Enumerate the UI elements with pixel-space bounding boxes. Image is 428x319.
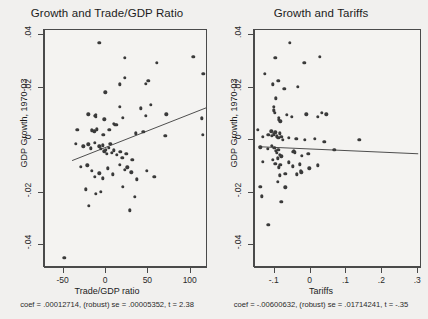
x-axis-tick <box>381 268 382 273</box>
panel-title-left: Growth and Trade/GDP Ratio <box>0 7 214 19</box>
y-axis-tick-label: .04 <box>18 27 38 37</box>
y-axis-tick-label: -.02 <box>228 185 248 195</box>
y-axis-tick-label: .02 <box>228 80 248 90</box>
x-axis-line-right <box>254 267 421 268</box>
panel-growth-trade-gdp-ratio: Growth and Trade/GDP Ratio GDP Growth, 1… <box>0 0 214 319</box>
x-axis-tick-label: .2 <box>361 275 401 285</box>
panel-growth-tariffs: Growth and Tariffs GDP Growth, 1970-03 T… <box>214 0 428 319</box>
x-axis-title-left: Trade/GDP ratio <box>0 286 214 296</box>
panel-title-right: Growth and Tariffs <box>214 7 428 19</box>
y-axis-tick <box>248 244 253 245</box>
x-axis-tick-label: .1 <box>325 275 365 285</box>
x-axis-tick-label: -50 <box>43 275 83 285</box>
y-axis-tick <box>38 244 43 245</box>
plot-area-right <box>254 29 421 267</box>
x-axis-tick-label: 50 <box>127 275 167 285</box>
y-axis-title-left: GDP Growth, 1970-03 <box>19 58 29 188</box>
y-axis-tick-label: 0 <box>228 132 248 142</box>
x-axis-tick-label: 100 <box>170 275 210 285</box>
x-axis-tick <box>190 268 191 273</box>
y-axis-tick <box>248 192 253 193</box>
y-axis-title-right: GDP Growth, 1970-03 <box>229 58 239 188</box>
y-axis-tick-label: -.02 <box>18 185 38 195</box>
y-axis-tick <box>38 139 43 140</box>
y-axis-tick-label: .04 <box>228 27 248 37</box>
x-axis-tick-label: 0 <box>85 275 125 285</box>
x-axis-title-right: Tariffs <box>214 286 428 296</box>
y-axis-tick <box>248 34 253 35</box>
x-axis-tick <box>63 268 64 273</box>
plot-area-left <box>44 29 207 267</box>
x-axis-tick-label: 0 <box>290 275 330 285</box>
x-axis-tick <box>417 268 418 273</box>
y-axis-tick <box>38 34 43 35</box>
x-axis-tick-label: .3 <box>397 275 428 285</box>
y-axis-tick <box>38 192 43 193</box>
x-axis-line-left <box>44 267 207 268</box>
x-axis-tick <box>147 268 148 273</box>
y-axis-tick-label: -.04 <box>18 237 38 247</box>
y-axis-tick <box>248 87 253 88</box>
regression-note-left: coef = .00012714, (robust) se = .0000535… <box>0 300 214 309</box>
fit-line-right <box>255 30 420 266</box>
y-axis-tick <box>38 87 43 88</box>
x-axis-tick-label: -.1 <box>254 275 294 285</box>
x-axis-tick <box>345 268 346 273</box>
x-axis-tick <box>105 268 106 273</box>
y-axis-tick-label: .02 <box>18 80 38 90</box>
two-panel-scatter-figure: Growth and Trade/GDP Ratio GDP Growth, 1… <box>0 0 428 319</box>
y-axis-tick-label: 0 <box>18 132 38 142</box>
fit-line-left <box>45 30 206 266</box>
regression-note-right: coef = -.00600632, (robust) se = .017142… <box>214 300 428 309</box>
x-axis-tick <box>274 268 275 273</box>
y-axis-tick-label: -.04 <box>228 237 248 247</box>
y-axis-tick <box>248 139 253 140</box>
x-axis-tick <box>310 268 311 273</box>
